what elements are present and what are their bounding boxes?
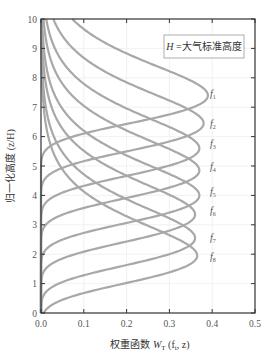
curve-label-f8: f8: [210, 251, 216, 263]
x-tick-label: 0.5: [249, 319, 261, 329]
y-tick-label: 9: [32, 44, 37, 54]
curve-label-f6: f6: [210, 205, 216, 217]
y-axis-title: 归一化高度 (z/H): [4, 129, 17, 203]
x-tick-label: 0.4: [206, 319, 218, 329]
y-tick-label: 0: [32, 309, 37, 319]
y-tick-label: 1: [32, 279, 37, 289]
y-tick-label: 7: [32, 103, 37, 113]
curve-label-f4: f4: [210, 161, 216, 173]
y-tick-label: 5: [32, 162, 37, 172]
x-tick-label: 0.0: [35, 319, 47, 329]
x-tick-label: 0.1: [78, 319, 90, 329]
y-tick-label: 10: [28, 15, 38, 25]
legend-text: H =大气标准高度: [165, 40, 241, 52]
legend-box: H =大气标准高度: [164, 35, 244, 58]
x-tick-label: 0.3: [163, 319, 175, 329]
curve-label-f1: f1: [210, 88, 216, 100]
curve-labels: f1f2f3f4f5f6f7f8: [210, 88, 216, 263]
weighting-function-chart: 0.00.10.20.30.40.5012345678910 H =大气标准高度…: [0, 0, 271, 362]
y-tick-label: 2: [32, 250, 37, 260]
curve-label-f3: f3: [210, 138, 216, 150]
y-tick-label: 3: [32, 220, 37, 230]
curve-label-f2: f2: [210, 118, 216, 130]
y-tick-label: 4: [32, 191, 37, 201]
x-tick-label: 0.2: [121, 319, 133, 329]
x-axis-title: 权重函数 WT (fi, z): [110, 338, 189, 352]
curve-label-f7: f7: [210, 232, 216, 244]
y-tick-label: 6: [32, 132, 37, 142]
curve-label-f5: f5: [210, 186, 216, 198]
y-tick-label: 8: [32, 73, 37, 83]
